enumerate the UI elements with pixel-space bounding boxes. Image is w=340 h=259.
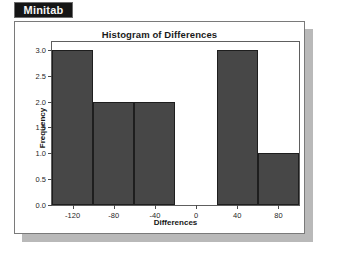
histogram-bar xyxy=(217,50,258,205)
y-tick-label: 1.0 xyxy=(36,149,46,158)
x-tick-mark xyxy=(237,205,238,209)
histogram-bar xyxy=(134,102,175,205)
x-tick-label: -80 xyxy=(108,211,119,220)
x-tick-mark xyxy=(155,205,156,209)
x-tick-mark xyxy=(73,205,74,209)
plot-inner: 0.00.51.01.52.02.53.0 -120-80-4004080 xyxy=(52,42,299,205)
x-tick-label: 40 xyxy=(233,211,241,220)
minitab-badge-label: Minitab xyxy=(24,5,64,16)
x-tick-label: -120 xyxy=(65,211,80,220)
y-tick-mark xyxy=(48,179,52,180)
y-tick-label: 0.0 xyxy=(36,201,46,210)
x-tick-label: -40 xyxy=(149,211,160,220)
x-tick-mark xyxy=(114,205,115,209)
histogram-bar xyxy=(93,102,134,205)
y-tick-mark xyxy=(48,50,52,51)
y-tick-mark xyxy=(48,76,52,77)
y-tick-mark xyxy=(48,127,52,128)
graph-window: Histogram of Differences Frequency Diffe… xyxy=(14,21,305,234)
y-tick-label: 3.0 xyxy=(36,45,46,54)
y-tick-label: 2.5 xyxy=(36,71,46,80)
minitab-badge: Minitab xyxy=(14,2,73,18)
x-tick-mark xyxy=(196,205,197,209)
y-tick-label: 0.5 xyxy=(36,175,46,184)
x-tick-mark xyxy=(278,205,279,209)
y-tick-mark xyxy=(48,153,52,154)
y-tick-mark xyxy=(48,205,52,206)
x-tick-label: 0 xyxy=(194,211,198,220)
y-tick-mark xyxy=(48,102,52,103)
x-tick-label: 80 xyxy=(274,211,282,220)
x-axis-title: Differences xyxy=(51,218,300,227)
plot-area: 0.00.51.01.52.02.53.0 -120-80-4004080 xyxy=(51,41,300,206)
y-tick-label: 2.0 xyxy=(36,97,46,106)
y-tick-label: 1.5 xyxy=(36,123,46,132)
chart-title: Histogram of Differences xyxy=(15,29,304,40)
histogram-bar xyxy=(52,50,93,205)
histogram-bar xyxy=(258,153,299,205)
